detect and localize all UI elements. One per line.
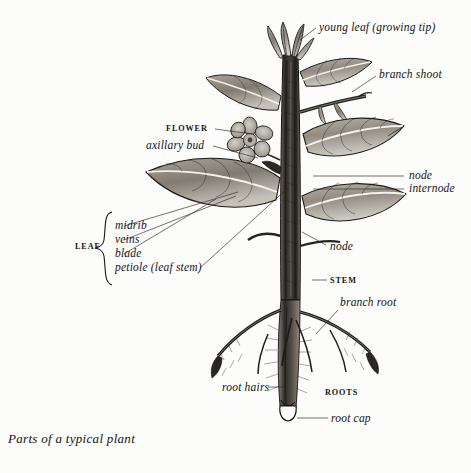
leaf-upper-left xyxy=(206,75,281,110)
figure-plate: young leaf (growing tip) branch shoot FL… xyxy=(0,0,471,473)
label-node-lower: node xyxy=(330,240,353,252)
label-root-hairs: root hairs xyxy=(222,381,269,393)
label-branch-shoot: branch shoot xyxy=(379,68,442,80)
label-petiole: petiole (leaf stem) xyxy=(115,261,202,273)
main-stem xyxy=(281,55,301,300)
label-leaf-bracket: LEAF xyxy=(75,242,100,251)
label-stem: STEM xyxy=(330,276,357,285)
flower xyxy=(225,116,280,166)
label-veins: veins xyxy=(115,233,140,245)
label-flower: FLOWER xyxy=(166,124,208,133)
leaf-right-large xyxy=(303,117,404,156)
label-axillary-bud: axillary bud xyxy=(146,139,204,151)
leader-branch-root xyxy=(316,310,338,334)
figure-caption: Parts of a typical plant xyxy=(8,431,135,447)
leader-veins xyxy=(124,196,236,240)
root-system xyxy=(211,300,378,421)
label-roots: ROOTS xyxy=(325,388,358,397)
leaf-right-lower xyxy=(302,182,406,221)
growing-tip xyxy=(268,22,314,60)
label-node-upper: node xyxy=(409,169,432,181)
label-young-leaf: young leaf (growing tip) xyxy=(319,21,436,33)
label-blade: blade xyxy=(115,247,142,259)
leaf-upper-right xyxy=(300,58,372,86)
label-branch-root: branch root xyxy=(340,296,396,308)
leader-branch-shoot xyxy=(352,76,376,92)
label-midrib: midrib xyxy=(115,219,147,231)
label-internode: internode xyxy=(409,182,455,194)
label-root-cap: root cap xyxy=(331,412,371,424)
